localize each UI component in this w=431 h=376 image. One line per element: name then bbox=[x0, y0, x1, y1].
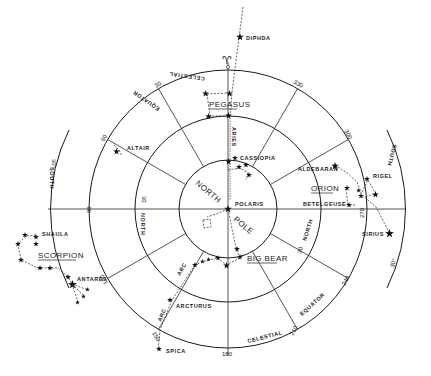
meridian-120 bbox=[108, 234, 186, 279]
hour-labels: 30 60 90 120 150 180 210 240 270 300 330 bbox=[86, 79, 365, 357]
north-pole-labels: NORTH POLE bbox=[194, 179, 255, 237]
north-label: NORTH bbox=[194, 179, 223, 205]
star-scorpion-8-icon bbox=[65, 274, 71, 280]
label-scorpion: SCORPION bbox=[38, 251, 84, 260]
star-diphda-icon bbox=[236, 33, 244, 40]
orion-left-line bbox=[346, 189, 356, 205]
tick-90: 90 bbox=[86, 206, 92, 213]
deg30-label-left: 30° bbox=[51, 159, 57, 169]
pole-label: POLE bbox=[232, 215, 255, 237]
star-cassiopia-3-icon bbox=[236, 164, 242, 170]
cassiopia-line bbox=[228, 168, 248, 180]
equator-label-bottom: EQUATOR bbox=[299, 291, 326, 316]
star-big-bear-5-icon bbox=[206, 257, 211, 262]
tick-30: 30 bbox=[154, 80, 163, 89]
aries-symbol-icon: ♈ bbox=[222, 54, 232, 66]
star-orion-1-icon bbox=[344, 185, 350, 191]
star-pegasus-4-icon bbox=[225, 112, 232, 118]
ring-labels: CELESTIAL EQUATOR CELESTIAL EQUATOR 30 N… bbox=[49, 71, 398, 344]
label-betelgeuse: BETELGEUSE bbox=[303, 201, 346, 207]
star-chart: 30 60 90 120 150 180 210 240 270 300 330… bbox=[0, 0, 431, 376]
label-sirius: SIRIUS bbox=[362, 231, 384, 237]
label-cassiopia: CASSIOPIA bbox=[240, 155, 276, 161]
label-rigel: RIGEL bbox=[373, 173, 393, 179]
north-label-right: NORTH bbox=[301, 218, 314, 241]
little-bear-line bbox=[207, 209, 228, 217]
star-cassiopia-1-icon bbox=[225, 158, 232, 164]
tick-180: 180 bbox=[222, 351, 233, 357]
star-scorpion-11-icon bbox=[75, 300, 80, 305]
star-altair-icon bbox=[113, 148, 120, 154]
equator-label-top: EQUATOR bbox=[132, 89, 161, 112]
star-scorpion-3-icon bbox=[33, 241, 39, 247]
star-arcturus-icon bbox=[167, 297, 173, 303]
north-label-left: NORTH bbox=[140, 213, 146, 236]
meridian-30 bbox=[159, 89, 204, 167]
tick-300: 300 bbox=[343, 129, 354, 141]
label-arcturus: ARCTURUS bbox=[176, 303, 212, 309]
label-big-bear: BIG BEAR bbox=[247, 254, 288, 263]
meridian-300 bbox=[270, 140, 348, 185]
star-rigel-icon bbox=[364, 176, 370, 182]
label-diphda: DIPHDA bbox=[246, 35, 271, 41]
thirty-label-right: 30 bbox=[296, 245, 304, 254]
tick-150: 150 bbox=[151, 331, 162, 343]
label-shaula: SHAULA bbox=[42, 231, 69, 237]
star-spica-icon bbox=[156, 346, 162, 352]
label-antares: ANTARES bbox=[77, 276, 107, 282]
star-pegasus-1-icon bbox=[202, 90, 209, 96]
tick-210: 210 bbox=[289, 324, 300, 336]
star-sirius-icon bbox=[385, 229, 394, 237]
label-altair: ALTAIR bbox=[127, 145, 150, 151]
star-cassiopia-2-icon bbox=[232, 155, 238, 161]
south-label-right: SOUTH bbox=[386, 144, 398, 167]
star-orion-4-icon bbox=[372, 191, 379, 197]
little-bear-box bbox=[203, 219, 211, 228]
aries-axis: ♈ ARIES bbox=[222, 54, 237, 200]
label-spica: SPICA bbox=[166, 348, 186, 354]
south-label-left-text: SOUTH bbox=[49, 167, 55, 189]
aries-label: ARIES bbox=[231, 127, 237, 147]
star-scorpion-10-icon bbox=[81, 294, 86, 299]
tick-270: 270 bbox=[359, 207, 365, 218]
aries-point-marker bbox=[226, 65, 229, 68]
star-scorpion-2-icon bbox=[33, 234, 39, 240]
pegasus-line-top bbox=[207, 93, 228, 94]
label-polaris: POLARIS bbox=[235, 201, 264, 207]
label-arc-upper: ARC bbox=[176, 262, 188, 277]
tick-330: 330 bbox=[293, 79, 305, 90]
label-pegasus: PEGASUS bbox=[209, 100, 250, 109]
thirty-label-left: 30 bbox=[141, 196, 147, 203]
label-orion: ORION bbox=[311, 184, 339, 193]
label-arc-lower: ARC bbox=[156, 307, 167, 322]
celestial-label-bottom: CELESTIAL bbox=[247, 329, 283, 344]
label-aldebaran: ALDEBARAN bbox=[298, 166, 338, 172]
star-scorpion-5-icon bbox=[18, 257, 24, 263]
